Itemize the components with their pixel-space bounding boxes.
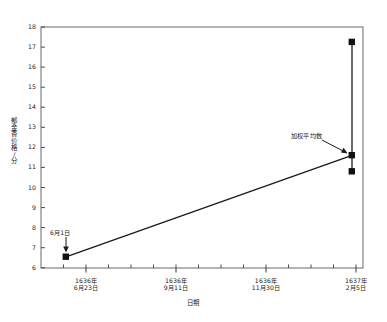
y-tick-label-7: 7: [16, 245, 36, 251]
y-axis-title-text: 郁金香价格/分: [9, 118, 20, 165]
tulip-price-chart: 18 17 16 15 14 13 12 11 10 9 8 7 6 1636年…: [0, 0, 387, 322]
x-axis-major-ticks: [86, 268, 356, 273]
data-point-low: [349, 168, 355, 174]
x-tick-label-1-year: 1636年: [74, 278, 98, 284]
y-tick-label-14: 14: [16, 104, 36, 110]
x-axis-title: 日期: [187, 298, 199, 307]
annotation-weighted-average: 加权平均数: [291, 131, 322, 140]
y-tick-label-9: 9: [16, 204, 36, 210]
x-tick-label-4: 1637年 2月5日: [345, 276, 367, 291]
x-tick-label-3-year: 1636年: [252, 278, 280, 284]
x-tick-label-4-date: 2月5日: [345, 285, 367, 291]
x-tick-label-4-year: 1637年: [345, 278, 367, 284]
plot-frame: [41, 27, 363, 268]
data-point-start: [63, 254, 69, 260]
y-tick-label-6: 6: [16, 265, 36, 271]
x-tick-label-2-date: 9月11日: [164, 285, 188, 291]
x-tick-label-2: 1636年 9月11日: [164, 276, 188, 291]
y-tick-label-16: 16: [16, 64, 36, 70]
y-tick-label-17: 17: [16, 44, 36, 50]
y-tick-label-10: 10: [16, 184, 36, 190]
x-tick-label-1-date: 6月23日: [74, 285, 98, 291]
x-tick-label-1: 1636年 6月23日: [74, 276, 98, 291]
y-axis-title: 郁金香价格/分: [9, 118, 20, 165]
chart-plot-area: [0, 0, 387, 322]
y-tick-label-11: 11: [16, 164, 36, 170]
x-tick-label-3-date: 11月30日: [252, 285, 280, 291]
data-point-weighted-average: [349, 152, 355, 158]
data-point-high: [349, 39, 355, 45]
y-tick-label-8: 8: [16, 224, 36, 230]
y-tick-label-15: 15: [16, 84, 36, 90]
annotation-start-date: 6月1日: [50, 228, 71, 237]
x-tick-label-3: 1636年 11月30日: [252, 276, 280, 291]
x-tick-label-2-year: 1636年: [164, 278, 188, 284]
y-tick-label-18: 18: [16, 24, 36, 30]
